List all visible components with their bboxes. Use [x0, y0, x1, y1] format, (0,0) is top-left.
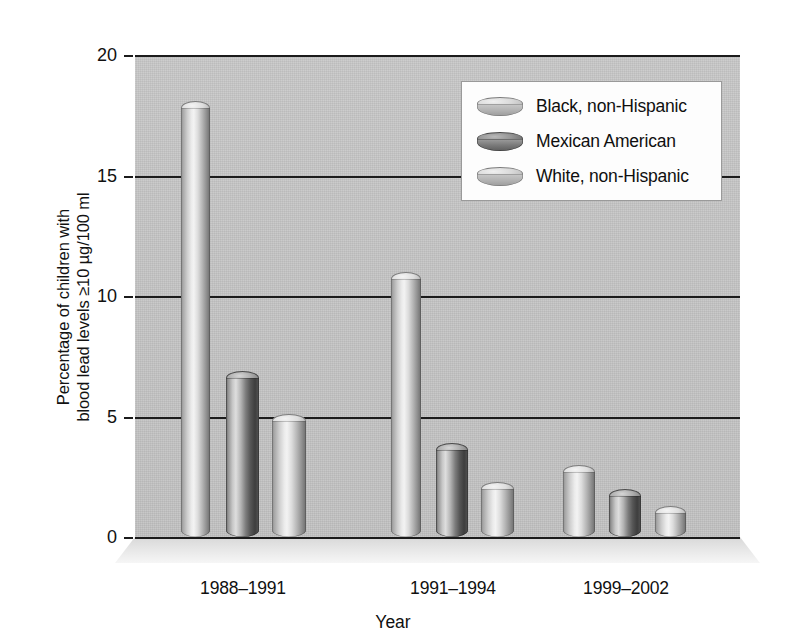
tick-mark-10 — [124, 296, 133, 298]
y-axis-title: Percentage of children with blood lead l… — [51, 47, 97, 567]
y-axis-title-line-2: blood lead levels ≥10 µg/100 ml — [74, 192, 94, 421]
bar-body — [181, 108, 210, 537]
x-tick-label-1999-2002: 1999–2002 — [583, 578, 669, 599]
legend-item-white-non-hispanic[interactable]: White, non-Hispanic — [462, 159, 721, 194]
bar-body — [272, 421, 306, 537]
bar-body — [481, 489, 514, 537]
legend-label: Mexican American — [536, 131, 676, 152]
bar-body — [391, 279, 421, 537]
bar-1991-1994-black-non-hispanic[interactable] — [391, 272, 421, 537]
x-tick-label-1988-1991: 1988–1991 — [200, 578, 286, 599]
bar-1988-1991-mexican-american[interactable] — [226, 371, 259, 537]
y-tick-label-10: 10 — [71, 286, 117, 307]
chart-floor — [115, 537, 760, 563]
y-tick-label-0: 0 — [71, 527, 117, 548]
bar-1991-1994-white-non-hispanic[interactable] — [481, 482, 514, 537]
tick-mark-0 — [124, 537, 133, 539]
legend-swatch-icon — [477, 132, 523, 152]
bar-1988-1991-black-non-hispanic[interactable] — [181, 101, 210, 537]
legend-label: White, non-Hispanic — [536, 166, 689, 187]
x-axis-title: Year — [0, 612, 786, 633]
tick-mark-5 — [124, 417, 133, 419]
legend-swatch-icon — [477, 97, 523, 117]
legend-item-black-non-hispanic[interactable]: Black, non-Hispanic — [462, 89, 721, 124]
x-axis-baseline — [135, 537, 740, 539]
chart-legend: Black, non-Hispanic Mexican American Whi… — [461, 81, 722, 201]
bar-body — [609, 496, 641, 537]
bar-1988-1991-white-non-hispanic[interactable] — [272, 414, 306, 537]
tick-mark-15 — [124, 176, 133, 178]
bar-body — [655, 513, 686, 537]
bar-1999-2002-mexican-american[interactable] — [609, 489, 641, 537]
legend-label: Black, non-Hispanic — [536, 96, 687, 117]
legend-swatch-icon — [477, 167, 523, 187]
bar-1991-1994-mexican-american[interactable] — [436, 443, 468, 537]
y-axis-title-line-1: Percentage of children with — [54, 209, 74, 405]
legend-item-mexican-american[interactable]: Mexican American — [462, 124, 721, 159]
bar-1999-2002-white-non-hispanic[interactable] — [655, 506, 686, 537]
x-tick-label-1991-1994: 1991–1994 — [410, 578, 496, 599]
bar-chart-figure: Percentage of children with blood lead l… — [0, 0, 786, 643]
y-tick-label-20: 20 — [71, 45, 117, 66]
bar-body — [226, 378, 259, 537]
bar-1999-2002-black-non-hispanic[interactable] — [563, 465, 595, 537]
bar-body — [436, 450, 468, 537]
gridline-20 — [135, 55, 740, 57]
tick-mark-20 — [124, 55, 133, 57]
bar-body — [563, 472, 595, 537]
gridline-10 — [135, 296, 740, 298]
y-tick-label-5: 5 — [71, 406, 117, 427]
y-tick-label-15: 15 — [71, 165, 117, 186]
